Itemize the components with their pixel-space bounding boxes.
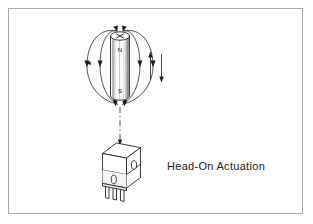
motion-arrows [148,52,163,83]
hall-sensor-switch [103,143,141,201]
sensor-slot-right [132,161,137,170]
motion-arrow-down [159,54,163,83]
diagram-page: N S [0,0,313,224]
alignment-centerline [118,107,122,146]
field-arrow-right-outer [150,61,155,68]
magnet-south-label: S [118,88,122,94]
field-arrow-left-inner [98,61,103,68]
sensor-slot-left [111,175,116,184]
head-on-actuation-diagram: N S [0,0,313,224]
figure-caption: Head-On Actuation [167,160,265,172]
magnet-north-label: N [118,47,122,53]
bar-magnet: N S [111,32,130,100]
field-arrow-left-outer [84,61,89,68]
field-arrow-right-inner [137,61,142,68]
